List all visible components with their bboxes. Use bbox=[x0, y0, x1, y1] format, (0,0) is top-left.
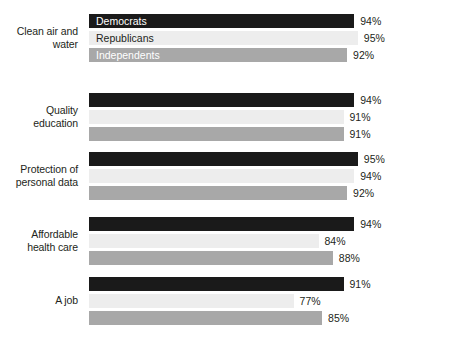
legend-item-democrats: Democrats bbox=[96, 14, 147, 28]
bar-value-label: 92% bbox=[353, 48, 374, 62]
bar-independents[interactable] bbox=[89, 251, 333, 265]
category-label-line: Protection of bbox=[0, 163, 78, 177]
bar-democrats[interactable] bbox=[89, 217, 354, 231]
category-label-line: personal data bbox=[0, 176, 78, 190]
category-label-line: Clean air and bbox=[0, 25, 78, 39]
category-label-line: education bbox=[0, 117, 78, 131]
category-label: Affordablehealth care bbox=[0, 228, 78, 255]
bar-democrats[interactable] bbox=[89, 93, 354, 107]
bar-value-label: 91% bbox=[350, 127, 371, 141]
category-label: Qualityeducation bbox=[0, 104, 78, 131]
category-label-line: water bbox=[0, 38, 78, 52]
bar-independents[interactable] bbox=[89, 186, 347, 200]
bar-democrats[interactable] bbox=[89, 277, 344, 291]
grouped-bar-chart: Clean air andwaterDemocrats94%Republican… bbox=[0, 0, 454, 338]
bar-value-label: 77% bbox=[300, 294, 321, 308]
bar-value-label: 92% bbox=[353, 186, 374, 200]
category-label-line: health care bbox=[0, 241, 78, 255]
bar-value-label: 94% bbox=[360, 169, 381, 183]
bar-value-label: 95% bbox=[364, 152, 385, 166]
category-label: Protection ofpersonal data bbox=[0, 163, 78, 190]
bar-value-label: 94% bbox=[360, 14, 381, 28]
bar-republicans[interactable] bbox=[89, 169, 354, 183]
legend-item-republicans: Republicans bbox=[96, 31, 154, 45]
bar-republicans[interactable] bbox=[89, 294, 294, 308]
category-label-line: Quality bbox=[0, 104, 78, 118]
bar-value-label: 88% bbox=[339, 251, 360, 265]
bar-value-label: 91% bbox=[350, 277, 371, 291]
bar-republicans[interactable] bbox=[89, 110, 344, 124]
bar-independents[interactable] bbox=[89, 311, 322, 325]
bar-democrats[interactable] bbox=[89, 152, 358, 166]
bar-value-label: 95% bbox=[364, 31, 385, 45]
bar-independents[interactable] bbox=[89, 127, 344, 141]
legend-item-independents: Independents bbox=[96, 48, 160, 62]
category-label-line: A job bbox=[0, 294, 78, 308]
category-label-line: Affordable bbox=[0, 228, 78, 242]
bar-value-label: 91% bbox=[350, 110, 371, 124]
category-label: A job bbox=[0, 294, 78, 308]
bar-value-label: 84% bbox=[325, 234, 346, 248]
bar-value-label: 94% bbox=[360, 93, 381, 107]
bar-republicans[interactable] bbox=[89, 234, 319, 248]
bar-value-label: 85% bbox=[328, 311, 349, 325]
bar-value-label: 94% bbox=[360, 217, 381, 231]
category-label: Clean air andwater bbox=[0, 25, 78, 52]
